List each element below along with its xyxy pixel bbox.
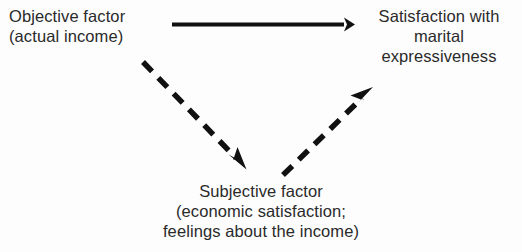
objective-factor-line-1: Objective factor — [9, 6, 125, 26]
objective-factor-line-2: (actual income) — [9, 26, 125, 46]
subjective-factor-line-1: Subjective factor — [118, 181, 404, 201]
dashed-arrow-objective-to-subjective — [143, 62, 247, 170]
subjective-factor-line-3: feelings about the income) — [118, 221, 404, 241]
dashed-arrow-subjective-to-satisfaction — [283, 87, 373, 175]
satisfaction-line-3: expressiveness — [356, 46, 522, 66]
solid-arrow-objective-to-satisfaction — [172, 18, 355, 32]
path-diagram: Objective factor (actual income) Satisfa… — [0, 0, 522, 252]
objective-factor-node: Objective factor (actual income) — [9, 6, 125, 46]
satisfaction-node: Satisfaction with marital expressiveness — [356, 6, 522, 66]
subjective-factor-line-2: (economic satisfaction; — [118, 201, 404, 221]
satisfaction-line-2: marital — [356, 26, 522, 46]
subjective-factor-node: Subjective factor (economic satisfaction… — [118, 181, 404, 241]
satisfaction-line-1: Satisfaction with — [356, 6, 522, 26]
